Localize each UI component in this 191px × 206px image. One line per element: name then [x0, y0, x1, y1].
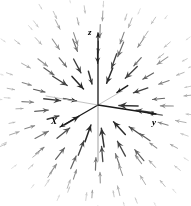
vector-field-figure: z X y	[0, 0, 191, 206]
axis-label-y: y	[152, 118, 156, 127]
axis-label-z: z	[88, 28, 92, 37]
axis-label-x: X	[51, 117, 57, 126]
vector-field-canvas	[0, 0, 191, 206]
